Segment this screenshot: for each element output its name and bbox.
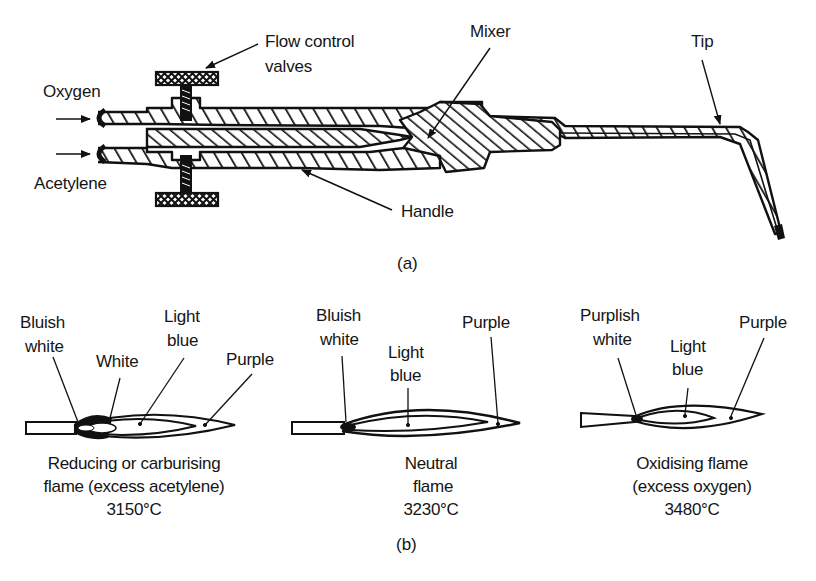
reducing-flame (26, 357, 252, 439)
label-flow-control-line1: Flow control (265, 32, 354, 52)
label-mixer: Mixer (470, 22, 511, 42)
handle-leader-arrow-icon (302, 170, 392, 210)
reducing-label-bluish-line2: white (25, 337, 64, 357)
oxidising-label-purplish-line2: white (593, 330, 632, 350)
label-acetylene: Acetylene (34, 174, 107, 194)
oxidising-title-line1: Oxidising flame (636, 453, 748, 474)
reducing-title-line2: flame (excess acetylene) (44, 476, 225, 497)
caption-a: (a) (397, 254, 418, 274)
reducing-core (78, 425, 94, 431)
caption-b: (b) (396, 535, 417, 555)
oxidising-title-line2: (excess oxygen) (632, 476, 751, 497)
neutral-label-purple: Purple (462, 313, 510, 333)
neutral-title-line2: flame (413, 476, 453, 497)
label-tip: Tip (691, 32, 713, 52)
neutral-core (340, 423, 356, 431)
neutral-outer-envelope (342, 410, 520, 436)
oxidising-label-purple: Purple (739, 313, 787, 333)
neutral-title-line1: Neutral (405, 453, 458, 474)
reducing-label-bluish-line1: Bluish (20, 313, 65, 333)
neutral-temperature: 3230°C (403, 499, 458, 520)
label-flow-control-line2: valves (265, 57, 312, 77)
reducing-nozzle (26, 422, 76, 434)
neutral-label-bluish-line2: white (320, 330, 359, 350)
label-handle: Handle (401, 202, 454, 222)
neutral-label-bluish-line1: Bluish (316, 306, 361, 326)
tip-leader-arrow-icon (702, 60, 720, 124)
upper-valve-knob (156, 72, 218, 85)
neutral-nozzle (292, 422, 344, 434)
oxidising-label-light-line1: Light (670, 337, 706, 357)
center-rod (147, 129, 412, 147)
inlet-arrows (56, 119, 90, 154)
lower-valve-stem (180, 155, 192, 193)
neutral-label-light-line2: blue (390, 366, 421, 386)
flow-control-leader-arrow-icon (206, 44, 258, 68)
oxidising-label-purplish-line1: Purplish (580, 306, 640, 326)
oxidising-core (631, 415, 643, 423)
lower-tube (98, 148, 440, 170)
reducing-label-purple: Purple (226, 350, 274, 370)
reducing-temperature: 3150°C (106, 499, 161, 520)
oxidising-temperature: 3480°C (664, 499, 719, 520)
oxidising-outer-envelope (634, 406, 762, 428)
reducing-label-light-line2: blue (167, 331, 198, 351)
lower-valve-knob (156, 193, 218, 206)
reducing-label-light-line1: Light (164, 307, 200, 327)
oxidising-label-light-line2: blue (672, 360, 703, 380)
reducing-title-line1: Reducing or carburising (48, 453, 221, 474)
neutral-label-light-line1: Light (388, 343, 424, 363)
reducing-label-white: White (96, 352, 138, 372)
label-oxygen: Oxygen (43, 82, 100, 102)
oxidising-nozzle (581, 413, 634, 427)
